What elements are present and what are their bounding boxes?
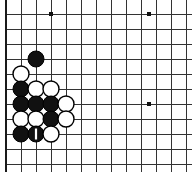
white-stone-c3r6[interactable] [28, 81, 44, 97]
white-stone[interactable] [13, 111, 29, 127]
white-stone[interactable] [28, 111, 44, 127]
black-stone-c3r7[interactable] [28, 96, 44, 112]
move-marker-icon [35, 129, 37, 140]
white-stone-c5r7[interactable] [58, 96, 74, 112]
board-stones [13, 51, 74, 142]
white-stone[interactable] [43, 81, 59, 97]
white-stone-c5r8[interactable] [58, 111, 74, 127]
black-stone-marked-c3r9[interactable] [28, 126, 44, 142]
star-point [49, 12, 53, 16]
black-stone[interactable] [28, 96, 44, 112]
white-stone-c2r8[interactable] [13, 111, 29, 127]
white-stone[interactable] [43, 126, 59, 142]
black-stone-c4r7[interactable] [43, 96, 59, 112]
star-point [147, 12, 151, 16]
white-stone[interactable] [13, 66, 29, 82]
black-stone-c4r8[interactable] [43, 111, 59, 127]
white-stone-c2r5[interactable] [13, 66, 29, 82]
white-stone[interactable] [28, 81, 44, 97]
white-stone-c4r6[interactable] [43, 81, 59, 97]
star-point [147, 102, 151, 106]
black-stone-c2r7[interactable] [13, 96, 29, 112]
white-stone[interactable] [58, 111, 74, 127]
black-stone-c2r9[interactable] [13, 126, 29, 142]
white-stone-c3r8[interactable] [28, 111, 44, 127]
black-stone-c2r6[interactable] [13, 81, 29, 97]
black-stone-c3r4[interactable] [28, 51, 44, 67]
black-stone[interactable] [43, 96, 59, 112]
white-stone[interactable] [58, 96, 74, 112]
white-stone-c4r9[interactable] [43, 126, 59, 142]
black-stone[interactable] [43, 111, 59, 127]
black-stone[interactable] [28, 51, 44, 67]
go-board-diagram [0, 0, 192, 172]
black-stone[interactable] [13, 81, 29, 97]
black-stone[interactable] [13, 126, 29, 142]
goban-canvas [0, 0, 192, 172]
black-stone[interactable] [13, 96, 29, 112]
